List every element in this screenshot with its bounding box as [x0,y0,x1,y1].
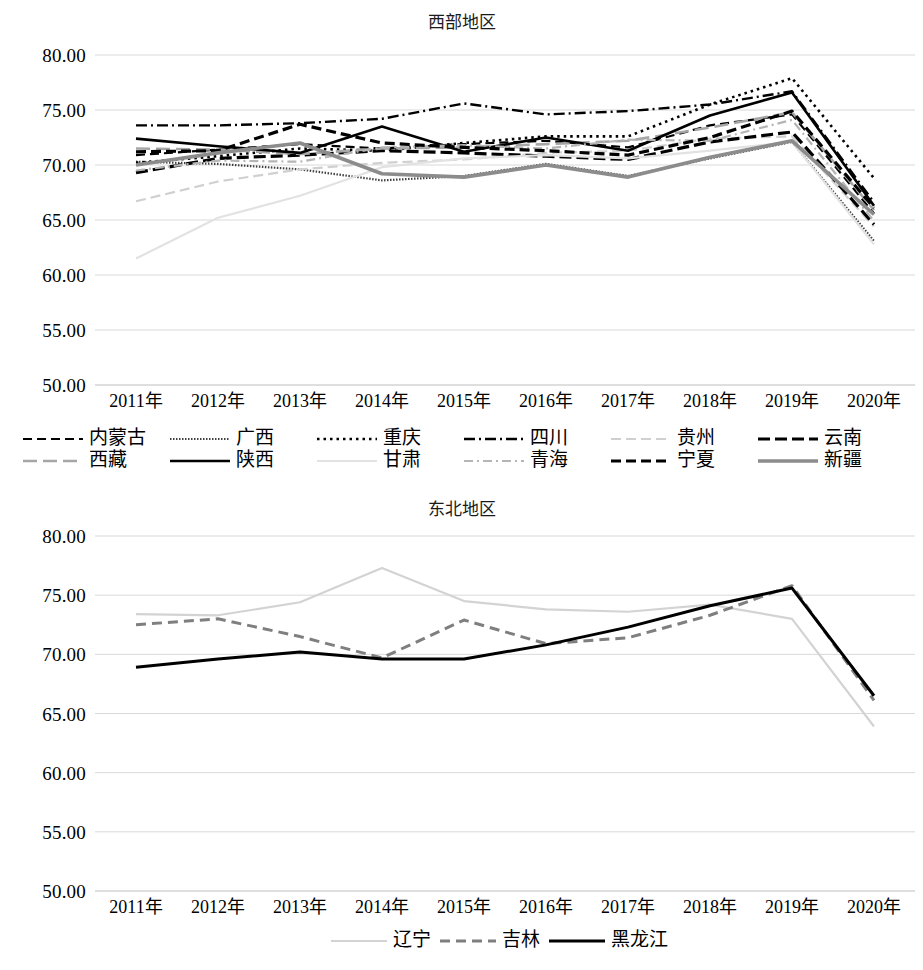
legend-northeast: 辽宁吉林黑龙江 [330,930,890,952]
x-axis-tick-label: 2014年 [355,392,409,410]
legend-item[interactable]: 宁夏 [610,450,757,470]
chart-title-northeast: 东北地区 [0,495,923,520]
x-axis-tick-label: 2012年 [191,392,245,410]
y-axis-tick-label: 65.00 [42,211,86,230]
legend-item[interactable]: 重庆 [316,428,463,448]
legend-label: 西藏 [89,450,127,470]
x-axis-tick-label: 2015年 [437,898,491,916]
legend-line-swatch-icon [610,453,672,467]
legend-item[interactable]: 贵州 [610,428,757,448]
x-axis-tick-label: 2011年 [109,392,162,410]
legend-item[interactable]: 云南 [757,428,904,448]
y-axis-tick-label: 60.00 [42,763,86,782]
y-axis-labels-northeast: 50.0055.0060.0065.0070.0075.0080.00 [0,514,86,889]
legend-line-swatch-icon [463,431,525,445]
plot-area-northeast [95,536,915,891]
y-axis-tick-label: 75.00 [42,586,86,605]
legend-label: 青海 [530,450,568,470]
legend-label: 广西 [236,428,274,448]
legend-item[interactable]: 青海 [463,450,610,470]
x-axis-tick-label: 2013年 [273,898,327,916]
x-axis-tick-label: 2013年 [273,392,327,410]
legend-line-swatch-icon [463,453,525,467]
x-axis-tick-label: 2016年 [519,392,573,410]
legend-item[interactable]: 黑龙江 [548,930,668,950]
legend-item[interactable]: 西藏 [22,450,169,470]
y-axis-tick-label: 50.00 [42,376,86,395]
y-axis-tick-label: 55.00 [42,321,86,340]
y-axis-tick-label: 75.00 [42,101,86,120]
y-axis-tick-label: 60.00 [42,266,86,285]
x-axis-labels-west: 2011年2012年2013年2014年2015年2016年2017年2018年… [95,392,915,418]
legend-line-swatch-icon [316,453,378,467]
legend-item[interactable]: 陕西 [169,450,316,470]
legend-label: 辽宁 [393,930,431,950]
y-axis-tick-label: 70.00 [42,156,86,175]
y-axis-tick-label: 50.00 [42,882,86,901]
chart-northeast-region: 东北地区 50.0055.0060.0065.0070.0075.0080.00… [0,492,923,970]
legend-label: 黑龙江 [611,930,668,950]
y-axis-tick-label: 55.00 [42,822,86,841]
legend-label: 重庆 [383,428,421,448]
legend-line-swatch-icon [610,431,672,445]
x-axis-tick-label: 2020年 [847,898,901,916]
legend-label: 云南 [824,428,862,448]
legend-line-swatch-icon [548,933,606,947]
x-axis-tick-label: 2014年 [355,898,409,916]
x-axis-tick-label: 2019年 [765,392,819,410]
legend-label: 贵州 [677,428,715,448]
legend-line-swatch-icon [757,453,819,467]
legend-west: 内蒙古广西重庆四川贵州云南西藏陕西甘肃青海宁夏新疆 [22,428,907,472]
legend-line-swatch-icon [22,431,84,445]
x-axis-tick-label: 2018年 [683,898,737,916]
legend-line-swatch-icon [169,431,231,445]
legend-item[interactable]: 四川 [463,428,610,448]
x-axis-labels-northeast: 2011年2012年2013年2014年2015年2016年2017年2018年… [95,898,915,924]
plot-area-west [95,55,915,385]
legend-item[interactable]: 辽宁 [330,930,431,950]
y-axis-labels-west: 50.0055.0060.0065.0070.0075.0080.00 [0,0,86,400]
y-axis-tick-label: 80.00 [42,527,86,546]
legend-item[interactable]: 广西 [169,428,316,448]
legend-line-swatch-icon [316,431,378,445]
x-axis-tick-label: 2018年 [683,392,737,410]
series-line [136,142,874,259]
x-axis-tick-label: 2015年 [437,392,491,410]
chart-west-region: 西部地区 50.0055.0060.0065.0070.0075.0080.00… [0,0,923,492]
x-axis-tick-label: 2017年 [601,898,655,916]
x-axis-tick-label: 2020年 [847,392,901,410]
legend-line-swatch-icon [757,431,819,445]
legend-item[interactable]: 新疆 [757,450,904,470]
legend-line-swatch-icon [439,933,497,947]
legend-label: 陕西 [236,450,274,470]
legend-label: 四川 [530,428,568,448]
legend-label: 吉林 [502,930,540,950]
y-axis-tick-label: 80.00 [42,46,86,65]
legend-item[interactable]: 内蒙古 [22,428,169,448]
x-axis-tick-label: 2016年 [519,898,573,916]
chart-title-west: 西部地区 [0,8,923,33]
x-axis-tick-label: 2019年 [765,898,819,916]
y-axis-tick-label: 70.00 [42,645,86,664]
legend-line-swatch-icon [22,453,84,467]
legend-line-swatch-icon [169,453,231,467]
y-axis-tick-label: 65.00 [42,704,86,723]
legend-label: 宁夏 [677,450,715,470]
legend-label: 新疆 [824,450,862,470]
series-line [136,586,874,701]
x-axis-tick-label: 2012年 [191,898,245,916]
legend-label: 甘肃 [383,450,421,470]
legend-label: 内蒙古 [89,428,146,448]
legend-item[interactable]: 吉林 [439,930,540,950]
legend-line-swatch-icon [330,933,388,947]
series-line [136,114,874,213]
legend-item[interactable]: 甘肃 [316,450,463,470]
series-line [136,568,874,727]
x-axis-tick-label: 2011年 [109,898,162,916]
x-axis-tick-label: 2017年 [601,392,655,410]
